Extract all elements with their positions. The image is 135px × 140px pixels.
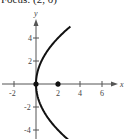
x-axis: x -2 2 4 6 (2, 80, 124, 98)
focus-point (55, 81, 60, 86)
y-axis-arrow-icon (34, 19, 39, 26)
parabola-curve (36, 27, 70, 140)
x-tick-label: 6 (100, 89, 104, 98)
x-axis-arrow-icon (111, 82, 118, 87)
x-tick-label: 2 (56, 89, 60, 98)
x-tick-label: -2 (9, 89, 16, 98)
parabola-chart: x -2 2 4 6 y 4 2 -2 -4 (0, 0, 135, 139)
vertex-point (33, 81, 38, 86)
y-axis-label: y (33, 9, 38, 18)
x-axis-label: x (119, 80, 124, 89)
y-tick-label: 4 (28, 34, 32, 43)
y-tick-label: 2 (28, 57, 32, 66)
y-tick-label: -2 (24, 103, 31, 112)
x-tick-label: 4 (78, 89, 82, 98)
y-tick-label: -4 (24, 126, 31, 135)
